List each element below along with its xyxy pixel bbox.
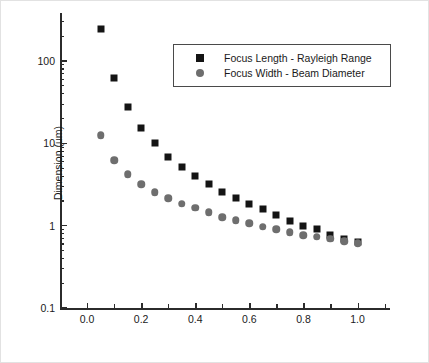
data-point bbox=[246, 220, 254, 228]
x-axis-line bbox=[60, 308, 390, 310]
data-point bbox=[205, 181, 212, 188]
y-axis-minor-tick bbox=[60, 93, 64, 94]
data-point bbox=[124, 104, 131, 111]
data-point bbox=[110, 157, 118, 165]
y-axis-minor-tick bbox=[60, 229, 64, 230]
data-point bbox=[313, 226, 320, 233]
data-point bbox=[205, 209, 213, 217]
legend-item-label: Focus Length - Rayleigh Range bbox=[224, 52, 372, 64]
data-point bbox=[313, 233, 321, 241]
y-axis-minor-tick bbox=[60, 85, 64, 86]
data-point bbox=[124, 171, 132, 179]
x-axis-minor-tick bbox=[385, 304, 386, 309]
y-axis-minor-tick bbox=[60, 64, 64, 65]
y-axis-minor-tick bbox=[60, 250, 64, 251]
y-axis-tick-label: 100 bbox=[37, 55, 55, 67]
y-axis-minor-tick bbox=[60, 104, 64, 105]
legend-square-marker-icon bbox=[188, 54, 212, 62]
y-axis-minor-tick bbox=[60, 258, 64, 259]
x-axis-tick-label: 0.8 bbox=[296, 313, 311, 325]
data-point bbox=[178, 164, 185, 171]
data-point bbox=[300, 231, 308, 239]
data-point bbox=[246, 200, 253, 207]
data-point bbox=[137, 180, 145, 188]
data-point bbox=[300, 222, 307, 229]
y-axis-minor-tick bbox=[60, 243, 64, 244]
data-point bbox=[232, 216, 240, 224]
x-axis-tick-label: 0.2 bbox=[134, 313, 149, 325]
y-axis-minor-tick bbox=[60, 73, 64, 74]
data-point bbox=[259, 223, 267, 231]
y-axis-tick bbox=[60, 307, 67, 308]
y-axis-minor-tick bbox=[60, 68, 64, 69]
legend-item-focus-width: Focus Width - Beam Diameter bbox=[174, 65, 390, 80]
data-point bbox=[273, 226, 281, 234]
x-axis-tick bbox=[141, 303, 142, 310]
plot-area: 0.1110100 0.00.20.40.60.81.0 Dimension (… bbox=[60, 13, 390, 308]
legend-item-focus-length: Focus Length - Rayleigh Range bbox=[174, 50, 390, 65]
y-axis-minor-tick bbox=[60, 118, 64, 119]
x-axis-tick-label: 0.4 bbox=[188, 313, 203, 325]
data-point bbox=[165, 153, 172, 160]
y-axis-minor-tick bbox=[60, 21, 64, 22]
y-axis-title: Dimension (um) bbox=[52, 126, 64, 200]
chart-figure: 0.1110100 0.00.20.40.60.81.0 Dimension (… bbox=[0, 0, 429, 363]
x-axis-tick bbox=[249, 303, 250, 310]
data-point bbox=[151, 140, 158, 147]
x-axis-minor-tick bbox=[330, 304, 331, 309]
data-point bbox=[219, 213, 227, 221]
y-axis-tick-label: 1 bbox=[49, 220, 55, 232]
data-point bbox=[340, 237, 348, 245]
x-axis-tick-label: 1.0 bbox=[350, 313, 365, 325]
x-axis-minor-tick bbox=[222, 304, 223, 309]
data-point bbox=[286, 229, 294, 237]
legend-item-label: Focus Width - Beam Diameter bbox=[224, 67, 365, 79]
y-axis-minor-tick bbox=[60, 200, 64, 201]
x-axis-tick bbox=[87, 303, 88, 310]
data-point bbox=[354, 240, 362, 248]
data-point bbox=[286, 217, 293, 224]
x-axis-minor-tick bbox=[114, 304, 115, 309]
data-point bbox=[138, 124, 145, 131]
data-point bbox=[178, 200, 186, 208]
x-axis-minor-tick bbox=[276, 304, 277, 309]
x-axis-tick-label: 0.6 bbox=[242, 313, 257, 325]
data-point bbox=[164, 195, 172, 203]
y-axis-tick bbox=[60, 225, 67, 226]
data-point bbox=[97, 26, 104, 33]
x-axis-tick bbox=[303, 303, 304, 310]
legend-circle-marker-icon bbox=[188, 69, 212, 77]
data-point bbox=[151, 188, 159, 196]
data-point bbox=[191, 204, 199, 212]
data-point bbox=[259, 205, 266, 212]
data-point bbox=[273, 211, 280, 218]
y-axis-minor-tick bbox=[60, 283, 64, 284]
x-axis-tick bbox=[195, 303, 196, 310]
y-axis-minor-tick bbox=[60, 36, 64, 37]
x-axis-minor-tick bbox=[168, 304, 169, 309]
data-point bbox=[232, 194, 239, 201]
y-axis-minor-tick bbox=[60, 233, 64, 234]
data-point bbox=[219, 188, 226, 195]
y-axis-minor-tick bbox=[60, 79, 64, 80]
data-point bbox=[327, 235, 335, 243]
data-point bbox=[192, 173, 199, 180]
y-axis-minor-tick bbox=[60, 268, 64, 269]
y-axis-tick-label: 0.1 bbox=[40, 302, 55, 314]
x-axis-tick bbox=[358, 303, 359, 310]
x-axis-tick-label: 0.0 bbox=[80, 313, 95, 325]
y-axis-minor-tick bbox=[60, 238, 64, 239]
data-point bbox=[111, 75, 118, 82]
chart-legend: Focus Length - Rayleigh Range Focus Widt… bbox=[173, 44, 391, 87]
data-point bbox=[97, 132, 105, 140]
y-axis-tick bbox=[60, 60, 67, 61]
